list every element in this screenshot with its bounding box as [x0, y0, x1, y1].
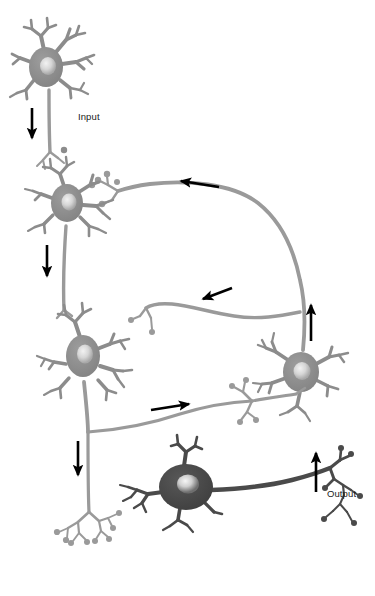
neuron-4-nucleus: [294, 362, 311, 380]
neuron-5-nucleus: [177, 475, 199, 494]
neural-circuit-diagram: Input Output: [0, 0, 375, 596]
axon-neuron1-to-neuron2: [49, 90, 50, 152]
axon-neuron3-to-bottom: [88, 432, 89, 512]
neural-circuit-canvas: Input Output: [0, 0, 375, 596]
input-label: Input: [78, 111, 100, 122]
neuron-3-nucleus: [77, 345, 93, 364]
neuron-1-nucleus: [40, 57, 56, 75]
neuron-2-nucleus: [62, 194, 77, 211]
output-label: Output: [327, 488, 356, 499]
